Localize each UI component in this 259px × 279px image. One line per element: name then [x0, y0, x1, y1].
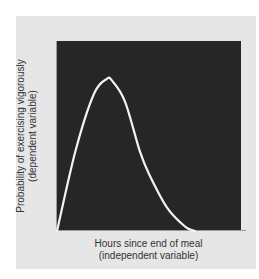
y-axis-title: Probability of exercising vigorously	[15, 41, 27, 231]
y-axis-label: Probability of exercising vigorously (de…	[15, 41, 41, 231]
x-axis-title: Hours since end of meal	[56, 238, 241, 250]
y-axis-subtitle: (dependent variable)	[27, 41, 39, 231]
x-axis-subtitle: (independent variable)	[56, 250, 241, 262]
